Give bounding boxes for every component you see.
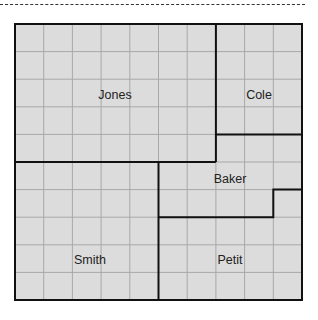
region-label-jones: Jones bbox=[98, 88, 131, 102]
plot-map-diagram: Jones Cole Baker Smith Petit bbox=[0, 0, 318, 320]
region-label-smith: Smith bbox=[74, 253, 106, 267]
region-label-baker: Baker bbox=[214, 172, 247, 186]
region-label-cole: Cole bbox=[246, 88, 272, 102]
region-label-petit: Petit bbox=[217, 253, 243, 267]
